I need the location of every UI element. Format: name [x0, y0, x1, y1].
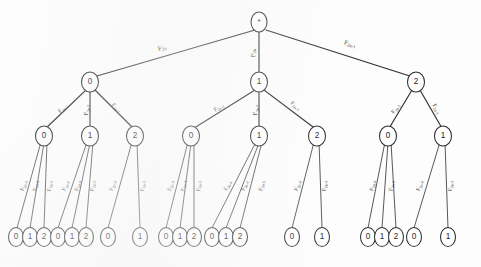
node-leaf-14[interactable]: 0: [285, 228, 300, 247]
node-l2-1-label: 1: [88, 131, 93, 140]
node-leaf-18[interactable]: 2: [389, 228, 404, 247]
node-leaf-16-label: 0: [366, 232, 371, 241]
node-leaf-13[interactable]: 2: [233, 228, 248, 247]
node-leaf-3-label: 0: [56, 232, 61, 241]
node-leaf-7[interactable]: 1: [133, 228, 148, 247]
node-leaf-10[interactable]: 2: [187, 228, 202, 247]
edge-l1-1-to-l2-5: [264, 90, 317, 130]
node-leaf-11[interactable]: 0: [205, 228, 220, 247]
edge-label-l2-0-leaf-2: F2n-5: [46, 181, 54, 192]
node-leaf-2[interactable]: 2: [37, 228, 52, 247]
node-leaf-13-label: 2: [238, 232, 243, 241]
node-l1-2[interactable]: 2: [408, 72, 425, 92]
node-leaf-1[interactable]: 1: [23, 228, 38, 247]
node-l2-3[interactable]: 0: [183, 126, 200, 146]
node-l1-0[interactable]: 0: [82, 72, 99, 92]
node-leaf-12[interactable]: 1: [219, 228, 234, 247]
edge-label-l2-3-leaf-10: F2n-5: [195, 181, 202, 192]
node-l2-0[interactable]: 0: [36, 126, 53, 146]
node-leaf-4-label: 1: [70, 232, 75, 241]
edge-l2-7-to-leaf-20: [445, 142, 448, 228]
node-leaf-8[interactable]: 0: [159, 228, 174, 247]
edge-label-l2-4-leaf-12: F2n-4: [240, 180, 250, 192]
node-l2-1[interactable]: 1: [82, 126, 99, 146]
node-l2-6[interactable]: 0: [380, 126, 397, 146]
edge-l2-5-to-leaf-15: [319, 142, 322, 228]
node-leaf-15[interactable]: 1: [315, 228, 330, 247]
edge-label-l2-2-leaf-6: F2n-4: [108, 180, 118, 192]
edge-l2-1-to-leaf-3: [58, 142, 87, 228]
edge-label-l1-0-l2-0: F2n-2: [57, 103, 69, 115]
edge-label-l1-0-l2-2: F2n-2: [110, 102, 123, 114]
edges-level2-level3: [17, 142, 448, 228]
node-root-label: *: [257, 17, 260, 26]
node-l1-1-label: 1: [257, 77, 262, 86]
edge-label-l2-3-leaf-9: F2n-4: [180, 180, 188, 191]
node-root[interactable]: *: [251, 12, 267, 32]
node-leaf-10-label: 2: [192, 232, 197, 241]
edge-root-to-l1-0: [90, 30, 255, 78]
node-leaf-5-label: 2: [84, 232, 89, 241]
node-l2-5[interactable]: 2: [309, 126, 326, 146]
node-l1-2-label: 2: [414, 77, 419, 86]
edge-label-l1-1-l2-3: F2n-2: [213, 102, 226, 114]
node-leaf-2-label: 2: [42, 232, 47, 241]
node-leaf-19[interactable]: 0: [407, 228, 422, 247]
node-l2-5-label: 2: [315, 131, 320, 140]
node-l2-4[interactable]: 1: [251, 126, 268, 146]
node-l2-6-label: 0: [386, 131, 391, 140]
node-l1-1[interactable]: 1: [251, 72, 268, 92]
edge-label-l2-5-leaf-15: F2n-5: [321, 181, 328, 192]
edge-label-l2-1-leaf-3: F2n-4: [61, 180, 71, 192]
node-leaf-15-label: 1: [320, 232, 325, 241]
edge-label-l2-0-leaf-1: F2n-4: [32, 180, 41, 191]
edge-label-l1-0-l2-1: F2n-2: [83, 105, 90, 115]
edge-root-to-l1-2: [266, 30, 416, 78]
nodes-level1: 0 1 2: [82, 72, 425, 92]
nodes-level3: 0 1 2 0 1 2 0: [9, 228, 456, 247]
edges-level1-level2: [44, 90, 443, 130]
node-leaf-1-label: 1: [28, 232, 33, 241]
edge-label-root-l1-1: F2n: [249, 48, 257, 57]
edge-label-l1-2-l2-6: F2n-2: [390, 103, 402, 116]
edge-label-l1-1-l2-4: F2n-2: [252, 105, 259, 115]
tree-diagram: F2n F2n F2n-1 F2n-2 F2n-2 F2n-2 F2n-2: [0, 0, 481, 267]
edge-l2-4-to-leaf-11: [212, 142, 256, 228]
node-l1-0-label: 0: [88, 77, 93, 86]
node-leaf-4[interactable]: 1: [65, 228, 80, 247]
node-leaf-20[interactable]: 1: [441, 228, 456, 247]
edge-l2-0-to-leaf-2: [44, 142, 47, 228]
edge-l1-1-to-l2-3: [191, 90, 255, 130]
node-leaf-17-label: 1: [380, 232, 385, 241]
edge-label-l2-5-leaf-14: F2n-4: [293, 180, 303, 192]
edge-label-l2-3-leaf-8: F2n-4: [166, 180, 175, 192]
node-l2-7[interactable]: 1: [435, 126, 452, 146]
node-leaf-6[interactable]: 0: [101, 228, 116, 247]
node-leaf-5[interactable]: 2: [79, 228, 94, 247]
node-l2-4-label: 1: [257, 131, 262, 140]
edge-label-l2-2-leaf-7: F2n-5: [139, 181, 146, 192]
edge-labels-level2-level3: F2n-4 F2n-4 F2n-5 F2n-4 F2n-4 F2n-5 F2n-…: [19, 180, 455, 193]
node-leaf-0[interactable]: 0: [9, 228, 24, 247]
edge-label-root-l1-0: F2n: [157, 42, 168, 52]
node-leaf-3[interactable]: 0: [51, 228, 66, 247]
edge-l2-2-to-leaf-7: [137, 142, 140, 228]
node-leaf-18-label: 2: [394, 232, 399, 241]
node-leaf-16[interactable]: 0: [361, 228, 376, 247]
node-l2-3-label: 0: [189, 131, 194, 140]
edge-l2-5-to-leaf-14: [292, 142, 314, 228]
node-leaf-20-label: 1: [446, 232, 451, 241]
nodes-level2: 0 1 2 0 1 2 0: [36, 126, 452, 146]
edge-label-root-l1-2: F2n-1: [343, 38, 358, 50]
node-leaf-14-label: 0: [290, 232, 295, 241]
node-leaf-0-label: 0: [14, 232, 19, 241]
node-l2-2[interactable]: 2: [127, 126, 144, 146]
tree-diagram-canvas: F2n F2n F2n-1 F2n-2 F2n-2 F2n-2 F2n-2: [0, 0, 481, 267]
edge-label-l2-1-leaf-4: F2n-4: [73, 180, 82, 192]
node-leaf-7-label: 1: [138, 232, 143, 241]
node-leaf-12-label: 1: [224, 232, 229, 241]
node-leaf-11-label: 0: [210, 232, 215, 241]
node-leaf-9[interactable]: 1: [173, 228, 188, 247]
node-leaf-6-label: 0: [106, 232, 111, 241]
node-leaf-17[interactable]: 1: [375, 228, 390, 247]
